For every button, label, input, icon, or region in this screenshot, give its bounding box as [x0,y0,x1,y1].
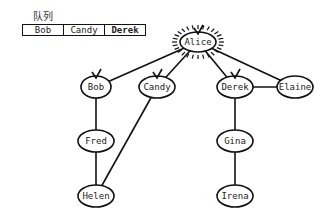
node-label: Candy [143,82,171,92]
node-label: Gina [224,136,246,146]
node-label: Alice [184,37,211,47]
node-label: Irena [221,191,248,201]
node-bob[interactable]: Bob [81,69,111,98]
node-label: Elaine [279,82,312,92]
node-derek[interactable]: Derek [217,69,253,98]
node-label: Derek [221,82,249,92]
node-gina[interactable]: Gina [217,130,253,152]
graph-edges [96,42,295,196]
node-irena[interactable]: Irena [217,185,253,207]
node-label: Helen [82,191,109,201]
node-elaine[interactable]: Elaine [277,76,313,98]
graph: AliceBobCandyDerekElaineFredGinaHelenIre… [0,0,332,222]
node-fred[interactable]: Fred [78,130,114,152]
graph-nodes: AliceBobCandyDerekElaineFredGinaHelenIre… [78,25,313,207]
node-alice[interactable]: Alice [180,25,216,52]
node-label: Fred [85,136,107,146]
node-label: Bob [88,82,104,92]
node-helen[interactable]: Helen [78,185,114,207]
